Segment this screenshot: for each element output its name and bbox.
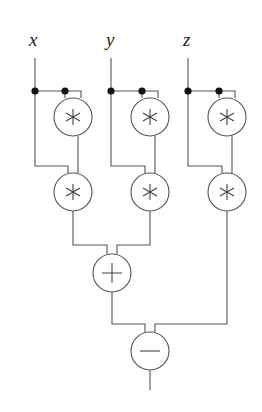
input-label-z: z	[182, 29, 191, 50]
wire-mz2-to-sub	[155, 211, 227, 332]
wire-y-fanout	[111, 91, 158, 98]
arithmetic-circuit-diagram: x y z	[0, 0, 262, 412]
gate-mz2	[208, 173, 246, 211]
junction-dot	[107, 87, 114, 94]
branch-z	[184, 58, 246, 211]
junction-dot	[184, 87, 191, 94]
gate-mz1	[208, 98, 246, 136]
gate-mx2	[54, 173, 92, 211]
wire-mx2-to-add	[73, 211, 107, 254]
input-label-x: x	[28, 29, 38, 50]
stage-add	[73, 211, 150, 292]
gate-sub	[131, 332, 169, 370]
branch-x	[31, 58, 92, 211]
gate-add	[93, 254, 131, 292]
gate-mx1	[54, 98, 92, 136]
junction-dot	[138, 87, 145, 94]
wire-add-to-sub	[112, 292, 145, 332]
junction-dot	[31, 87, 38, 94]
stage-subtract	[112, 211, 227, 390]
branch-y	[107, 58, 169, 211]
junction-dot	[61, 87, 68, 94]
input-label-y: y	[104, 29, 115, 50]
wire-z-fanout	[188, 91, 235, 98]
wire-x-fanout	[35, 91, 81, 98]
gate-my2	[131, 173, 169, 211]
junction-dot	[215, 87, 222, 94]
gate-my1	[131, 98, 169, 136]
wire-my2-to-add	[117, 211, 150, 254]
